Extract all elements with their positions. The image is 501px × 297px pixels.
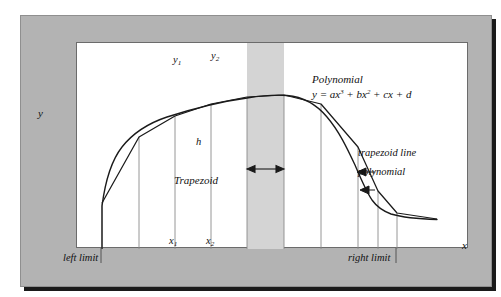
equation-part-2: + bx [344, 88, 367, 100]
axis-ticks [76, 248, 468, 270]
x1-label: x1 [169, 236, 177, 248]
polynomial-title: Polynomial [312, 74, 363, 85]
y-axis-label: y [38, 108, 43, 119]
y1-subscript: 1 [178, 59, 182, 67]
figure-mat [20, 15, 492, 287]
trapezoid-line-annotation: trapezoid line [358, 148, 416, 159]
figure-root: y x left limit right limit x1 x2 y1 y2 h… [0, 0, 501, 297]
x-axis-label: x [462, 240, 467, 251]
polynomial-equation: y = ax3 + bx2 + cx + d [312, 89, 411, 100]
plot-svg [77, 43, 469, 249]
y2-subscript: 2 [216, 55, 220, 63]
trapezoid-band [247, 43, 284, 249]
y1-label: y1 [173, 55, 181, 67]
polynomial-leader [360, 186, 375, 194]
equation-part-1: y = ax [312, 88, 340, 100]
polynomial-annotation: polynomial [358, 167, 405, 178]
h-label: h [196, 137, 201, 148]
y2-label: y2 [211, 51, 219, 63]
trapezoid-caption: Trapezoid [174, 175, 218, 186]
x2-label: x2 [206, 236, 214, 248]
x2-subscript: 2 [211, 240, 215, 248]
left-limit-label: left limit [63, 253, 98, 264]
plot-area [76, 42, 468, 248]
right-limit-label: right limit [348, 253, 390, 264]
equation-part-3: + cx + d [370, 88, 411, 100]
x1-subscript: 1 [174, 240, 178, 248]
